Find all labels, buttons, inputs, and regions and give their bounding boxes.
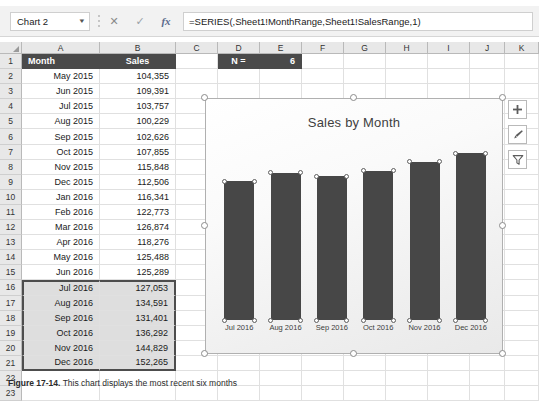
cell-B11[interactable]: 122,773 — [100, 205, 176, 220]
cell-H21[interactable] — [386, 356, 428, 371]
chart-handle-w[interactable] — [201, 222, 208, 229]
chart-object[interactable]: Sales by Month Jul 2016Aug 2016Sep 2016O… — [205, 98, 503, 354]
cell-I23[interactable] — [428, 386, 470, 401]
cell-F23[interactable] — [302, 386, 344, 401]
chart-handle-se[interactable] — [499, 350, 506, 357]
cell-F2[interactable] — [302, 69, 344, 84]
data-point-handle[interactable] — [222, 318, 227, 323]
cell-E1[interactable]: 6 — [260, 54, 302, 69]
row-header-11[interactable]: 11 — [0, 205, 22, 220]
cell-D23[interactable] — [218, 386, 260, 401]
cell-B5[interactable]: 100,229 — [100, 114, 176, 129]
column-header-d[interactable]: D — [218, 42, 260, 54]
row-header-13[interactable]: 13 — [0, 235, 22, 250]
cell-F21[interactable] — [302, 356, 344, 371]
select-all-corner[interactable] — [0, 42, 22, 54]
cell-B15[interactable]: 125,289 — [100, 265, 176, 280]
cell-A10[interactable]: Jan 2016 — [22, 190, 100, 205]
data-point-handle[interactable] — [361, 318, 366, 323]
cell-A19[interactable]: Oct 2016 — [22, 326, 100, 341]
data-point-handle[interactable] — [483, 151, 488, 156]
cell-A1[interactable]: Month — [22, 54, 100, 69]
row-header-1[interactable]: 1 — [0, 54, 22, 69]
cell-K21[interactable] — [505, 356, 539, 371]
row-header-8[interactable]: 8 — [0, 160, 22, 175]
cell-A4[interactable]: Jul 2015 — [22, 99, 100, 114]
column-header-g[interactable]: G — [344, 42, 386, 54]
cell-K9[interactable] — [505, 175, 539, 190]
category-axis[interactable]: Jul 2016Aug 2016Sep 2016Oct 2016Nov 2016… — [216, 323, 494, 337]
chart-handle-s[interactable] — [350, 350, 357, 357]
row-header-6[interactable]: 6 — [0, 129, 22, 144]
data-point-handle[interactable] — [252, 318, 257, 323]
cell-K14[interactable] — [505, 250, 539, 265]
cell-I21[interactable] — [428, 356, 470, 371]
cell-C23[interactable] — [176, 386, 218, 401]
column-header-i[interactable]: I — [428, 42, 470, 54]
cell-C21[interactable] — [176, 356, 218, 371]
cell-D21[interactable] — [218, 356, 260, 371]
cell-B19[interactable]: 136,292 — [100, 326, 176, 341]
cell-B9[interactable]: 112,506 — [100, 175, 176, 190]
cell-B2[interactable]: 104,355 — [100, 69, 176, 84]
cell-B4[interactable]: 103,757 — [100, 99, 176, 114]
row-header-17[interactable]: 17 — [0, 296, 22, 311]
cell-A8[interactable]: Nov 2015 — [22, 160, 100, 175]
chart-styles-button[interactable] — [508, 125, 527, 144]
cell-G1[interactable] — [344, 54, 386, 69]
cell-B6[interactable]: 102,626 — [100, 129, 176, 144]
column-header-f[interactable]: F — [302, 42, 344, 54]
cell-K20[interactable] — [505, 341, 539, 356]
cell-A18[interactable]: Sep 2016 — [22, 311, 100, 326]
row-header-2[interactable]: 2 — [0, 69, 22, 84]
cell-K3[interactable] — [505, 84, 539, 99]
cell-B8[interactable]: 115,848 — [100, 160, 176, 175]
cell-F1[interactable] — [302, 54, 344, 69]
cell-K17[interactable] — [505, 296, 539, 311]
chart-handle-n[interactable] — [350, 94, 357, 101]
column-header-e[interactable]: E — [260, 42, 302, 54]
data-point-handle[interactable] — [483, 318, 488, 323]
chart-bar[interactable] — [271, 173, 301, 320]
cell-B14[interactable]: 125,488 — [100, 250, 176, 265]
cell-B21[interactable]: 152,265 — [100, 356, 176, 371]
cell-B20[interactable]: 144,829 — [100, 341, 176, 356]
column-header-b[interactable]: B — [100, 42, 176, 54]
data-point-handle[interactable] — [453, 318, 458, 323]
column-header-j[interactable]: J — [470, 42, 505, 54]
row-header-15[interactable]: 15 — [0, 265, 22, 280]
row-header-20[interactable]: 20 — [0, 341, 22, 356]
chart-elements-button[interactable] — [508, 100, 527, 119]
cell-B7[interactable]: 107,855 — [100, 145, 176, 160]
data-point-handle[interactable] — [437, 159, 442, 164]
cell-A5[interactable]: Aug 2015 — [22, 114, 100, 129]
chart-handle-e[interactable] — [499, 222, 506, 229]
chart-title[interactable]: Sales by Month — [206, 115, 502, 130]
cell-K18[interactable] — [505, 311, 539, 326]
chart-handle-nw[interactable] — [201, 94, 208, 101]
chart-handle-ne[interactable] — [499, 94, 506, 101]
chart-handle-sw[interactable] — [201, 350, 208, 357]
cell-K13[interactable] — [505, 235, 539, 250]
cell-E21[interactable] — [260, 356, 302, 371]
data-point-handle[interactable] — [437, 318, 442, 323]
cell-H1[interactable] — [386, 54, 428, 69]
cell-G23[interactable] — [344, 386, 386, 401]
cell-G2[interactable] — [344, 69, 386, 84]
cell-B13[interactable]: 118,276 — [100, 235, 176, 250]
data-point-handle[interactable] — [407, 318, 412, 323]
row-header-21[interactable]: 21 — [0, 356, 22, 371]
row-header-19[interactable]: 19 — [0, 326, 22, 341]
cell-H2[interactable] — [386, 69, 428, 84]
cell-D1[interactable]: N = — [218, 54, 260, 69]
column-header-k[interactable]: K — [505, 42, 539, 54]
insert-function-icon[interactable]: fx — [153, 10, 179, 32]
cell-B18[interactable]: 131,401 — [100, 311, 176, 326]
row-header-12[interactable]: 12 — [0, 220, 22, 235]
cell-C2[interactable] — [176, 69, 218, 84]
cell-B10[interactable]: 116,341 — [100, 190, 176, 205]
data-point-handle[interactable] — [268, 318, 273, 323]
row-header-9[interactable]: 9 — [0, 175, 22, 190]
cell-A11[interactable]: Feb 2016 — [22, 205, 100, 220]
cell-B16[interactable]: 127,053 — [100, 280, 176, 295]
